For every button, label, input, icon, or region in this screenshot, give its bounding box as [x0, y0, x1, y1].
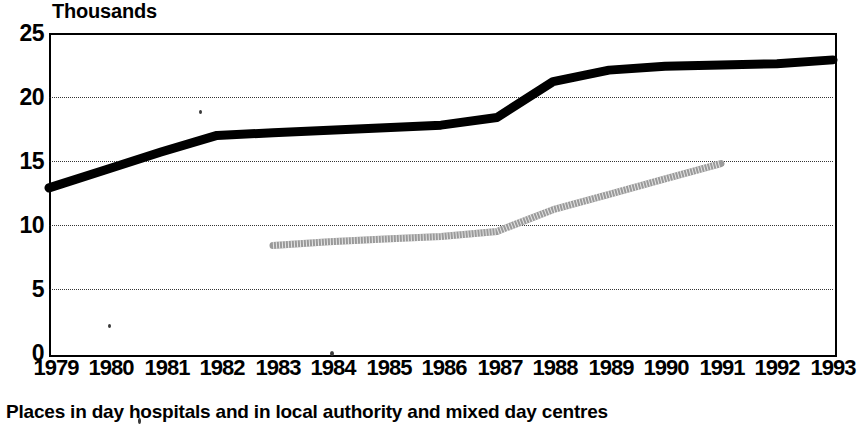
x-tick-1992: 1992: [755, 357, 800, 379]
x-tick-1993: 1993: [811, 357, 856, 379]
scan-speckle: [199, 110, 202, 114]
x-tick-1988: 1988: [533, 357, 578, 379]
y-tick-5: 5: [0, 278, 44, 301]
series-plot: [49, 33, 833, 353]
x-tick-1985: 1985: [367, 357, 412, 379]
x-tick-1983: 1983: [256, 357, 301, 379]
x-tick-1979: 1979: [34, 357, 79, 379]
x-tick-1984: 1984: [311, 357, 356, 379]
series-line-day-centres: [273, 164, 721, 246]
x-tick-1980: 1980: [89, 357, 134, 379]
chart-page: Thousands 25 20 15 10 5 0 1979 1980 1981…: [0, 0, 861, 433]
x-tick-1982: 1982: [200, 357, 245, 379]
chart-caption: Places in day hospitals and in local aut…: [6, 401, 608, 423]
scan-speckle: [108, 324, 111, 328]
x-tick-1987: 1987: [478, 357, 523, 379]
x-tick-1991: 1991: [700, 357, 745, 379]
x-tick-1990: 1990: [644, 357, 689, 379]
y-tick-20: 20: [0, 86, 44, 109]
x-tick-1986: 1986: [422, 357, 467, 379]
y-tick-25: 25: [0, 22, 44, 45]
scan-speckle: [330, 351, 334, 356]
x-tick-1981: 1981: [145, 357, 190, 379]
x-axis-labels: 1979 1980 1981 1982 1983 1984 1985 1986 …: [0, 357, 861, 387]
plot-area: [49, 33, 833, 353]
x-tick-1989: 1989: [589, 357, 634, 379]
units-label: Thousands: [52, 1, 157, 21]
scan-speckle: [138, 418, 141, 424]
y-tick-10: 10: [0, 214, 44, 237]
y-tick-15: 15: [0, 150, 44, 173]
